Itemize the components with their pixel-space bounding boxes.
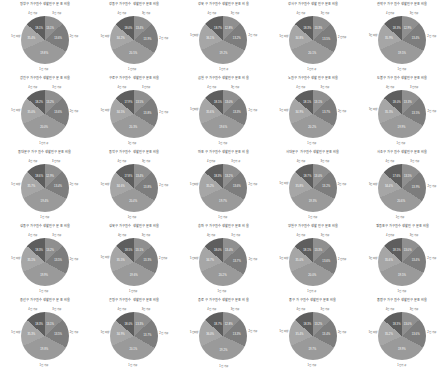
pie-slice-label: 13.8% (144, 185, 152, 188)
pie-outer-label: 2인 가구 (338, 182, 346, 186)
pie-slice-label: 13.2% (46, 248, 54, 251)
pie-outer-label: 2인 가구 (70, 257, 78, 261)
pie-outer-label: 4인 가구 (386, 85, 394, 89)
pie-chart-grid: 평창구 가구원수 생활인구 분포 비율13.1%13.6%19.8%35.4%1… (0, 0, 447, 370)
pie-outer-label: 4인 가구 (118, 307, 126, 311)
pie-outer-label: 5인 이상 (11, 108, 19, 112)
pie-slice-label: 35.0% (296, 259, 304, 262)
pie-chart-cell: 양천구 가구원수 생활인구 분포 비율13.3%13.6%20.0%35.0%1… (268, 222, 357, 296)
pie-outer-label: 2인 가구 (427, 109, 435, 113)
pie-outer-label: 3인 가구 (142, 11, 150, 15)
pie-slices (378, 312, 426, 360)
pie-chart-title: 은평구 가구원수 생활인구 분포 비율 (89, 299, 178, 303)
pie-outer-label: 3인 가구 (410, 233, 418, 237)
pie-slice-label: 19.2% (220, 348, 228, 351)
pie-outer-label: 5인 이상 (101, 108, 109, 112)
pie-outer-label: 2인 가구 (248, 108, 256, 112)
pie-outer-label: 5인 이상 (369, 330, 377, 334)
pie-outer-label: 1인 가구 (307, 67, 315, 71)
pie-slice-label: 13.4% (136, 174, 144, 177)
pie-chart-cell: 평창구 가구원수 생활인구 분포 비율13.1%13.6%19.8%35.4%1… (0, 0, 89, 74)
pie-slice-label: 13.3% (136, 322, 144, 325)
pie-outer-label: 3인 가구 (231, 233, 239, 237)
pie-slice-label: 12.8% (225, 26, 233, 29)
pie-slice-label: 18.3% (35, 322, 43, 325)
pie-slice-label: 19.5% (398, 52, 406, 55)
pie-outer-label: 3인 가구 (410, 307, 418, 311)
pie-slice-label: 13.2% (233, 36, 241, 39)
pie-slice-label: 18.7% (303, 174, 311, 177)
pie-outer-label: 3인 가구 (231, 159, 239, 163)
pie-wrapper: 13.1%13.7%20.2%34.9%18.1% (289, 90, 337, 138)
pie-slice-label: 20.2% (219, 274, 227, 277)
pie-outer-label: 4인 가구 (297, 11, 305, 15)
pie-outer-label: 2인 가구 (159, 36, 167, 40)
pie-slice-label: 13.8% (144, 111, 152, 114)
pie-outer-label: 4인 가구 (28, 307, 36, 311)
pie-wrapper: 13.5%13.8%20.3%34.5%17.9% (110, 90, 158, 138)
pie-slices (289, 164, 337, 212)
pie-slice-label: 34.6% (117, 185, 125, 188)
pie-slice-label: 36.0% (206, 333, 214, 336)
pie-slice-label: 19.4% (41, 200, 49, 203)
pie-outer-label: 4인 가구 (117, 85, 125, 89)
pie-chart-cell: 서초구 가구원수 생활인구 분포 비율13.5%13.9%20.6%34.4%1… (358, 148, 447, 222)
pie-slice-label: 18.0% (124, 26, 132, 29)
pie-wrapper: 13.0%13.3%19.6%35.6%18.5% (199, 90, 247, 138)
pie-slice-label: 20.0% (40, 126, 48, 129)
pie-slice-label: 13.4% (225, 248, 233, 251)
pie-wrapper: 12.8%13.2%19.2%36.1%18.7% (199, 16, 247, 64)
pie-chart-title: 송파구 가구원수 생활인구 분포 비율 (179, 225, 268, 229)
pie-outer-label: 3인 가구 (52, 307, 60, 311)
pie-outer-label: 4인 가구 (386, 159, 394, 163)
pie-slice-label: 19.3% (309, 200, 317, 203)
pie-slices (21, 90, 69, 138)
pie-slice-label: 13.3% (233, 332, 241, 335)
pie-outer-label: 4인 가구 (207, 307, 215, 311)
pie-outer-label: 3인 가구 (410, 11, 418, 15)
pie-chart-title: 성동구 가구원수 생활인구 분포 비율 (0, 225, 89, 229)
pie-outer-label: 2인 가구 (159, 331, 167, 335)
pie-slice-label: 35.8% (296, 184, 304, 187)
pie-slices (199, 16, 247, 64)
pie-outer-label: 1인 가구 (396, 215, 404, 219)
pie-outer-label: 5인 이상 (279, 34, 287, 38)
pie-slice-label: 35.6% (206, 110, 214, 113)
pie-slice-label: 13.2% (314, 322, 322, 325)
pie-outer-label: 1인 가구 (398, 289, 406, 293)
pie-slice-label: 13.4% (412, 259, 420, 262)
pie-slice-label: 13.4% (136, 26, 144, 29)
pie-outer-label: 4인 가구 (386, 11, 394, 15)
pie-chart-title: 용산구 가구원수 생활인구 분포 비율 (0, 299, 89, 303)
pie-wrapper: 13.0%13.2%19.3%35.8%18.7% (289, 164, 337, 212)
pie-slice-label: 13.4% (322, 333, 330, 336)
pie-chart-cell: 강서구 가구원수 생활인구 분포 비율13.3%13.5%20.1%34.8%1… (268, 0, 357, 74)
pie-chart-cell: 구로구 가구원수 생활인구 분포 비율13.5%13.8%20.3%34.5%1… (89, 74, 178, 148)
pie-outer-label: 3인 가구 (142, 159, 150, 163)
pie-slice-label: 13.3% (404, 100, 412, 103)
pie-chart-title: 강서구 가구원수 생활인구 분포 비율 (268, 3, 357, 7)
pie-slice-label: 18.3% (393, 26, 401, 29)
pie-slice-label: 20.4% (129, 200, 137, 203)
pie-outer-label: 2인 가구 (159, 256, 167, 260)
pie-outer-label: 3인 가구 (52, 85, 60, 89)
pie-wrapper: 13.4%13.9%20.5%34.2%18.0% (110, 16, 158, 64)
pie-slice-label: 13.0% (314, 174, 322, 177)
pie-outer-label: 3인 가구 (52, 11, 60, 15)
pie-outer-label: 4인 가구 (28, 233, 36, 237)
pie-chart-cell: 관악구 가구원수 생활인구 분포 비율12.9%13.4%19.5%35.9%1… (358, 0, 447, 74)
pie-slice-label: 18.5% (393, 248, 401, 251)
pie-outer-label: 3인 가구 (142, 307, 150, 311)
pie-chart-title: 강동구 가구원수 생활인구 분포 비율 (89, 3, 178, 7)
pie-chart-cell: 강동구 가구원수 생활인구 분포 비율13.4%13.9%20.5%34.2%1… (89, 0, 178, 74)
pie-outer-label: 1인 가구 (308, 363, 316, 367)
pie-wrapper: 13.4%13.7%20.2%34.7%18.0% (199, 238, 247, 286)
pie-slice-label: 34.8% (296, 37, 304, 40)
pie-outer-label: 5인 이상 (369, 33, 377, 37)
pie-outer-label: 3인 가구 (231, 85, 239, 89)
pie-slice-label: 13.4% (412, 37, 420, 40)
pie-outer-label: 2인 가구 (338, 109, 346, 113)
pie-slice-label: 13.5% (54, 333, 62, 336)
pie-outer-label: 3인 가구 (52, 233, 60, 237)
pie-outer-label: 5인 이상 (369, 182, 377, 186)
